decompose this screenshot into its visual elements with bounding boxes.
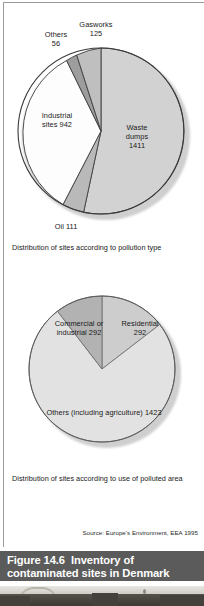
pie-chart-pollution-type: Gasworks 125 Others 56 Industrial sites … (0, 0, 204, 250)
figure-number: Figure 14.6 (7, 554, 65, 566)
pie-1-label-industrial-sites: Industrial sites 942 (29, 111, 85, 129)
pie-2-graphic (28, 295, 178, 445)
pie-2-label-others-including-agriculture: Others (including agriculture) 1423 (36, 408, 172, 417)
figure-title-text: Figure 14.6 Inventory of contaminated si… (7, 554, 198, 580)
pie-1-label-waste-dumps: Waste dumps 1411 (113, 123, 161, 151)
pie-1-label-others: Others 56 (33, 30, 79, 48)
photo-foreground-shape-2 (92, 593, 118, 606)
pie-chart-polluted-area-use: Commercial or industrial 292 Residential… (0, 265, 204, 505)
photo-foreground-shape-3 (160, 595, 204, 606)
pie-2-label-residential: Residential 292 (111, 319, 169, 337)
pie-2-label-commercial-or-industrial: Commercial or industrial 292 (42, 319, 116, 337)
figure-title-bar: Figure 14.6 Inventory of contaminated si… (0, 551, 204, 581)
pie-1-svg (17, 47, 187, 217)
pie-1-caption: Distribution of sites according to pollu… (12, 243, 161, 252)
pie-2-caption: Distribution of sites according to use o… (12, 474, 183, 483)
pie-1-graphic (17, 47, 187, 217)
photo-foreground-shape-1 (0, 596, 30, 606)
source-note: Source: Europe's Environment, EEA 1995 (83, 529, 198, 536)
bottom-photo-strip (0, 586, 204, 606)
figure-page: Gasworks 125 Others 56 Industrial sites … (0, 0, 204, 606)
pie-2-svg (28, 295, 178, 445)
pie-1-label-oil: Oil 111 (42, 222, 90, 231)
